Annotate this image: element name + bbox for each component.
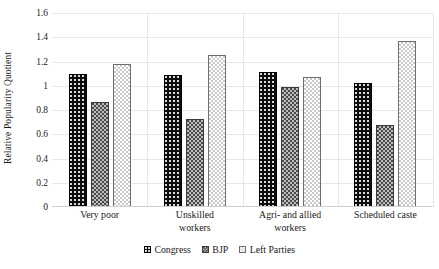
category-label-line: Agri- and allied <box>243 209 338 222</box>
x-axis-category-labels: Very poorUnskilledworkersAgri- and allie… <box>52 209 433 243</box>
bar-group <box>338 13 433 207</box>
bar-chart: Relative Popularity Quotient 00.20.40.60… <box>0 0 439 269</box>
legend-item-congress[interactable]: Congress <box>144 244 191 255</box>
bar-congress[interactable] <box>354 83 372 207</box>
x-axis-line <box>52 206 433 207</box>
y-axis-tick-label: 0 <box>18 202 48 212</box>
dotted-white-swatch <box>239 246 246 253</box>
category-label-line: workers <box>243 222 338 235</box>
chart-legend: CongressBJPLeft Parties <box>0 244 439 255</box>
y-axis-tick-label: 0.4 <box>18 154 48 164</box>
legend-item-bjp[interactable]: BJP <box>202 244 228 255</box>
plot-area <box>52 13 433 207</box>
y-axis-tick-label: 0.8 <box>18 105 48 115</box>
checkered-gray-swatch <box>202 246 209 253</box>
category-label-line: workers <box>147 222 242 235</box>
category-label-line: Very poor <box>52 209 147 222</box>
y-axis-title-text: Relative Popularity Quotient <box>3 51 13 163</box>
bar-bjp[interactable] <box>281 87 299 207</box>
category-label: Unskilledworkers <box>147 209 242 234</box>
category-label: Very poor <box>52 209 147 222</box>
bar-bjp[interactable] <box>91 102 109 207</box>
y-axis-tick-label: 0.6 <box>18 129 48 139</box>
bar-group <box>52 13 147 207</box>
bar-left-parties[interactable] <box>303 77 321 207</box>
bar-congress[interactable] <box>69 74 87 207</box>
group-divider <box>433 13 434 207</box>
legend-label: BJP <box>212 244 228 255</box>
category-label-line: Unskilled <box>147 209 242 222</box>
category-label-line: Scheduled caste <box>338 209 433 222</box>
bar-left-parties[interactable] <box>208 55 226 207</box>
bar-bjp[interactable] <box>186 119 204 208</box>
legend-item-left-parties[interactable]: Left Parties <box>239 244 295 255</box>
legend-label: Congress <box>154 244 190 255</box>
y-axis-tick-label: 1 <box>18 81 48 91</box>
bar-left-parties[interactable] <box>113 64 131 207</box>
y-axis-tick-label: 0.2 <box>18 178 48 188</box>
bar-group <box>147 13 242 207</box>
y-axis-tick-label: 1.2 <box>18 57 48 67</box>
category-label: Scheduled caste <box>338 209 433 222</box>
y-axis-tick-label: 1.4 <box>18 32 48 42</box>
y-axis-tick-labels: 00.20.40.60.811.21.41.6 <box>18 7 48 213</box>
legend-label: Left Parties <box>250 244 295 255</box>
bar-left-parties[interactable] <box>398 41 416 207</box>
category-label: Agri- and alliedworkers <box>243 209 338 234</box>
bar-group <box>243 13 338 207</box>
bar-bjp[interactable] <box>376 125 394 207</box>
bar-congress[interactable] <box>164 75 182 207</box>
y-axis-title: Relative Popularity Quotient <box>0 0 16 215</box>
dotted-black-swatch <box>144 246 151 253</box>
y-axis-tick-label: 1.6 <box>18 8 48 18</box>
bar-congress[interactable] <box>259 72 277 207</box>
